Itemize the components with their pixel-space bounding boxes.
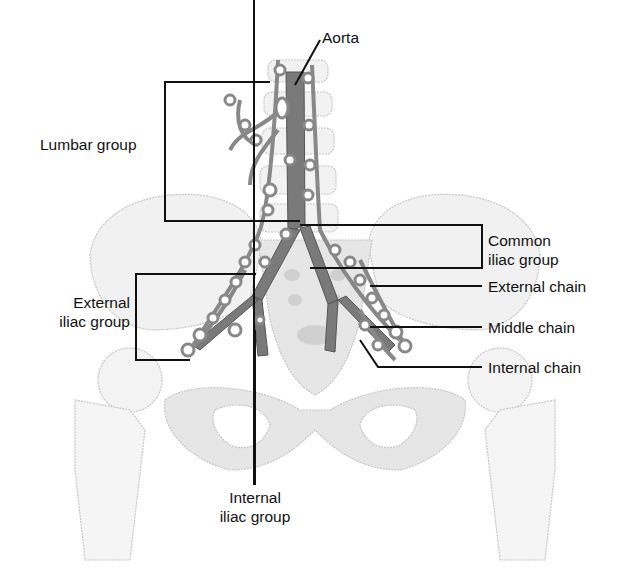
- label-external-iliac-group: External iliac group: [40, 293, 130, 331]
- label-external-chain: External chain: [488, 277, 586, 296]
- label-common-iliac-line2: iliac group: [488, 250, 559, 269]
- label-aorta: Aorta: [322, 28, 359, 47]
- label-internal-iliac-group: Internal iliac group: [205, 488, 305, 526]
- label-middle-chain: Middle chain: [488, 318, 575, 337]
- label-common-iliac-group: Common iliac group: [488, 231, 559, 269]
- label-external-iliac-line2: iliac group: [40, 312, 130, 331]
- label-common-iliac-line1: Common: [488, 231, 559, 250]
- label-lumbar-group: Lumbar group: [40, 135, 137, 154]
- label-internal-iliac-line2: iliac group: [205, 507, 305, 526]
- label-internal-chain: Internal chain: [488, 358, 581, 377]
- label-internal-iliac-line1: Internal: [205, 488, 305, 507]
- label-external-iliac-line1: External: [40, 293, 130, 312]
